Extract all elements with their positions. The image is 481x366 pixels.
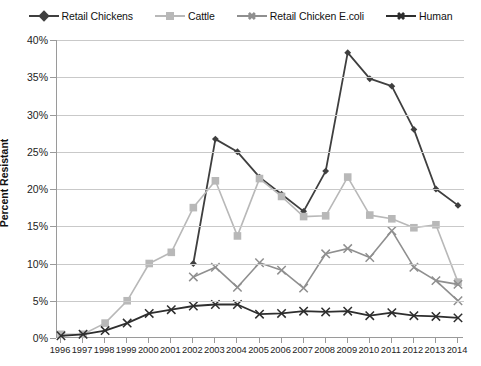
series-line [193, 53, 458, 264]
legend-marker-square-icon [155, 10, 185, 22]
data-point-marker [57, 330, 65, 338]
y-axis-tick-label: 5% [33, 295, 48, 307]
x-axis-tick-mark [413, 338, 414, 343]
data-point-marker [322, 168, 329, 175]
x-axis-tick-mark [148, 338, 149, 343]
x-axis-tick-mark [303, 338, 304, 343]
series-human [57, 300, 462, 340]
x-axis-tick-label: 2014 [447, 345, 468, 355]
x-axis-tick-mark [457, 338, 458, 343]
data-point-marker [344, 173, 352, 181]
gridline [57, 40, 464, 41]
x-axis-tick-label: 2003 [204, 345, 225, 355]
data-point-marker [366, 253, 374, 261]
x-axis-tick-label: 2007 [292, 345, 313, 355]
y-axis-tick-label: 30% [27, 109, 48, 121]
gridline [57, 115, 464, 116]
x-axis-tick-mark [369, 338, 370, 343]
x-axis-tick-mark [259, 338, 260, 343]
legend-item-retail-chicken-ecoli[interactable]: Retail Chicken E.coli [237, 10, 364, 22]
gridline [57, 226, 464, 227]
x-axis-tick-label: 1997 [72, 345, 93, 355]
series-line [61, 177, 458, 334]
data-point-marker [278, 193, 286, 201]
data-point-marker [388, 227, 396, 235]
data-point-marker [388, 83, 395, 90]
x-axis-tick-label: 2010 [358, 345, 379, 355]
x-axis-tick-label: 2011 [381, 345, 401, 355]
x-axis-tick-mark [104, 338, 105, 343]
legend-label-human: Human [419, 10, 452, 22]
x-axis-tick-mark [82, 338, 83, 343]
data-point-marker [410, 224, 418, 232]
x-axis-labels: 1996199719981999200020012002200320042005… [0, 340, 481, 366]
y-axis-tick-label: 20% [27, 183, 48, 195]
x-axis-tick-label: 2008 [314, 345, 335, 355]
y-axis-tick-label: 15% [27, 220, 48, 232]
legend-item-cattle[interactable]: Cattle [155, 10, 215, 22]
chart-container: Retail Chickens Cattle Retail Chicken E.… [0, 0, 481, 366]
legend-item-human[interactable]: Human [386, 10, 452, 22]
data-point-marker [300, 213, 308, 221]
data-point-marker [212, 177, 220, 185]
x-axis-tick-mark [435, 338, 436, 343]
y-axis-tick-label: 10% [27, 258, 48, 270]
series-retail-chickens [190, 49, 461, 267]
data-point-marker [299, 284, 307, 292]
x-axis-tick-mark [391, 338, 392, 343]
gridline [57, 264, 464, 265]
gridline [57, 338, 464, 339]
legend-label-cattle: Cattle [188, 10, 215, 22]
data-point-marker [233, 283, 241, 291]
x-axis-tick-mark [325, 338, 326, 343]
x-axis-tick-label: 1999 [116, 345, 137, 355]
data-point-marker [189, 273, 197, 281]
data-point-marker [410, 126, 417, 133]
x-axis-tick-mark [126, 338, 127, 343]
plot-area [56, 40, 463, 338]
x-axis-tick-label: 1996 [50, 345, 71, 355]
x-axis-tick-label: 2006 [270, 345, 291, 355]
x-axis-tick-label: 2013 [425, 345, 446, 355]
legend-marker-x-icon [237, 10, 267, 22]
y-axis-tick-mark [50, 338, 56, 339]
y-axis-tick-label: 35% [27, 71, 48, 83]
x-axis-tick-mark [347, 338, 348, 343]
gridline [57, 189, 464, 190]
data-point-marker [256, 175, 264, 183]
data-point-marker [123, 319, 131, 327]
data-point-marker [322, 212, 330, 220]
data-point-marker [101, 319, 109, 327]
x-axis-tick-label: 2005 [248, 345, 269, 355]
x-axis-tick-label: 1998 [94, 345, 115, 355]
data-point-marker [190, 204, 198, 212]
x-axis-tick-label: 2012 [403, 345, 424, 355]
chart-legend: Retail Chickens Cattle Retail Chicken E.… [0, 6, 481, 26]
y-axis-tick-label: 40% [27, 34, 48, 46]
x-axis-tick-mark [170, 338, 171, 343]
data-point-marker [388, 215, 396, 223]
legend-marker-x-dark-icon [386, 10, 416, 22]
gridline [57, 152, 464, 153]
data-point-marker [234, 232, 242, 240]
data-point-marker [432, 221, 440, 229]
data-point-marker [366, 211, 374, 219]
x-axis-tick-mark [214, 338, 215, 343]
series-line [61, 305, 458, 336]
x-axis-tick-mark [60, 338, 61, 343]
x-axis-tick-label: 2004 [226, 345, 247, 355]
x-axis-tick-label: 2002 [182, 345, 203, 355]
data-point-marker [167, 249, 175, 257]
series-line [193, 231, 458, 301]
gridline [57, 77, 464, 78]
legend-label-retail-chickens: Retail Chickens [62, 10, 133, 22]
legend-label-retail-chicken-ecoli: Retail Chicken E.coli [270, 10, 364, 22]
y-axis-tick-label: 25% [27, 146, 48, 158]
x-axis-tick-mark [281, 338, 282, 343]
gridline [57, 301, 464, 302]
series-retail-chicken-e-coli [189, 227, 462, 305]
x-axis-tick-mark [236, 338, 237, 343]
y-axis-labels: 0%5%10%15%20%25%30%35%40% [0, 0, 56, 366]
data-point-marker [277, 266, 285, 274]
x-axis-tick-mark [192, 338, 193, 343]
